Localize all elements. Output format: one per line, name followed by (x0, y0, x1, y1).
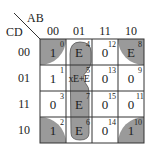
col-variable-label: AB (27, 12, 44, 24)
minterm-index: 6 (86, 119, 90, 127)
row-label: 10 (12, 117, 36, 143)
minterm-index: 1 (60, 67, 64, 75)
minterm-index: 11 (136, 93, 144, 101)
minterm-index: 13 (108, 67, 116, 75)
col-label: 00 (40, 24, 66, 39)
minterm-index: 9 (138, 67, 142, 75)
col-label: 11 (92, 24, 118, 39)
minterm-index: 4 (86, 41, 90, 49)
minterm-index: 14 (108, 119, 116, 127)
minterm-index: 12 (108, 41, 116, 49)
col-label: 10 (118, 24, 144, 39)
col-label: 01 (66, 24, 92, 39)
row-label: 00 (12, 39, 36, 65)
minterm-index: 5 (86, 67, 90, 75)
minterm-index: 2 (60, 119, 64, 127)
minterm-index: 3 (60, 93, 64, 101)
row-label: 01 (12, 65, 36, 91)
minterm-index: 7 (86, 93, 90, 101)
row-label: 11 (12, 91, 36, 117)
minterm-index: 0 (60, 41, 64, 49)
row-variable-label: CD (6, 26, 23, 38)
minterm-index: 8 (138, 41, 142, 49)
minterm-index: 10 (134, 119, 142, 127)
minterm-index: 15 (108, 93, 116, 101)
